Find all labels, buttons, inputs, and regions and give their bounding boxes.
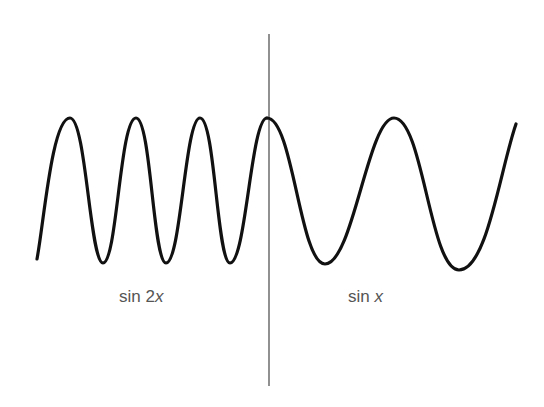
sin-x-label: sin x bbox=[348, 287, 383, 307]
sin-x-label-prefix: sin bbox=[348, 287, 374, 306]
sin-2x-curve bbox=[37, 118, 267, 263]
sin-x-curve bbox=[267, 118, 516, 270]
sin-2x-label-variable: x bbox=[155, 287, 164, 306]
sin-x-label-variable: x bbox=[374, 287, 383, 306]
sin-2x-label: sin 2x bbox=[119, 287, 163, 307]
sine-comparison-figure bbox=[0, 0, 544, 407]
sin-2x-label-prefix: sin 2 bbox=[119, 287, 155, 306]
